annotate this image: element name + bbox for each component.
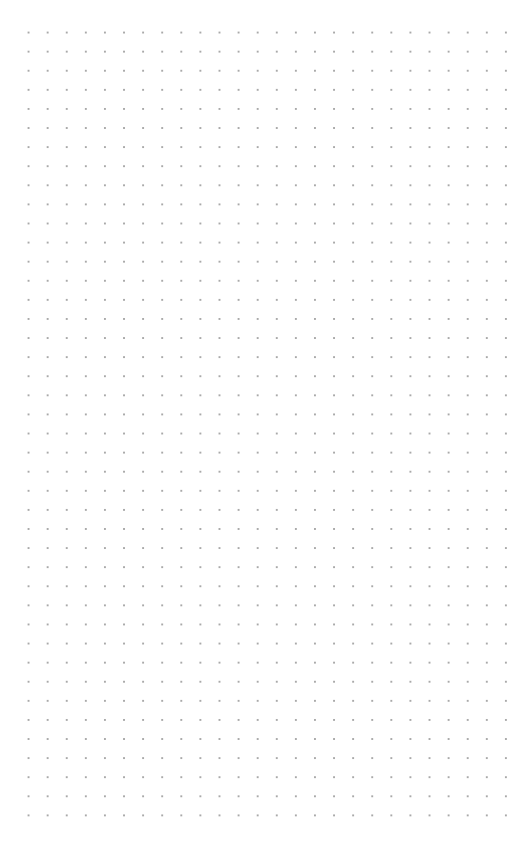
dot-grid-canvas[interactable]: dot-grid <box>0 0 525 848</box>
dot-grid-background <box>19 23 516 825</box>
